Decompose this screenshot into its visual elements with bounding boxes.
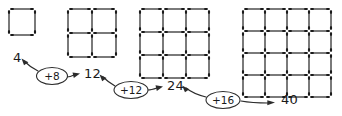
matchstick-tip bbox=[8, 30, 10, 33]
matchstick bbox=[10, 34, 33, 36]
matchstick-tip bbox=[93, 32, 96, 34]
matchstick-tip bbox=[34, 10, 36, 13]
matchstick-tip bbox=[264, 48, 266, 51]
matchstick bbox=[185, 56, 187, 76]
matchstick bbox=[69, 32, 90, 34]
matchstick bbox=[93, 56, 114, 58]
matchstick-tip bbox=[242, 76, 244, 79]
matchstick-tip bbox=[67, 52, 69, 55]
matchstick-tip bbox=[34, 30, 36, 33]
matchstick-tip bbox=[162, 73, 164, 76]
term-label-2: 12 bbox=[84, 66, 101, 81]
matchstick-tip bbox=[330, 32, 332, 35]
matchstick-tip bbox=[141, 8, 144, 10]
matchstick-tip bbox=[204, 77, 207, 79]
difference-bubble-2[interactable]: +12 bbox=[114, 82, 148, 99]
arrow-diff2-to-term2 bbox=[100, 75, 116, 87]
arrow-diff3-to-term4 bbox=[241, 100, 275, 105]
term-label-3: 24 bbox=[167, 78, 184, 93]
matchstick-tip bbox=[67, 10, 69, 13]
matchstick-tip bbox=[266, 8, 269, 10]
matchstick bbox=[69, 56, 90, 58]
matchstick bbox=[67, 10, 69, 31]
matchstick bbox=[264, 32, 266, 51]
matchstick-tip bbox=[67, 34, 69, 37]
matchstick-tip bbox=[330, 48, 332, 51]
matchstick-tip bbox=[288, 74, 291, 76]
matchstick-tip bbox=[244, 74, 247, 76]
difference-bubble-3[interactable]: +16 bbox=[206, 92, 240, 109]
matchstick-tip bbox=[91, 52, 93, 55]
matchstick-tip bbox=[286, 76, 288, 79]
matchstick-tip bbox=[244, 96, 247, 98]
matchstick-tip bbox=[326, 96, 329, 98]
matchstick bbox=[187, 8, 207, 10]
matchstick-tip bbox=[260, 74, 263, 76]
matchstick-tip bbox=[115, 34, 117, 37]
matchstick-tip bbox=[260, 96, 263, 98]
matchstick-tip bbox=[187, 54, 190, 56]
matchstick-tip bbox=[187, 77, 190, 79]
matchstick-tip bbox=[158, 31, 161, 33]
matchstick-tip bbox=[264, 92, 266, 95]
matchstick-tip bbox=[242, 92, 244, 95]
matchstick-tip bbox=[158, 77, 161, 79]
matchstick-tip bbox=[162, 56, 164, 59]
matchstick-tip bbox=[288, 52, 291, 54]
matchstick-tip bbox=[242, 48, 244, 51]
matchstick-sequence-diagram: +8 +12 +16 4 12 24 40 bbox=[0, 0, 342, 116]
matchstick bbox=[264, 76, 266, 95]
matchstick-tip bbox=[139, 73, 141, 76]
matchstick-tip bbox=[308, 92, 310, 95]
difference-bubble-2-label: +12 bbox=[120, 84, 142, 96]
matchstick bbox=[187, 77, 207, 79]
matchstick-tip bbox=[242, 26, 244, 29]
matchstick-tip bbox=[310, 52, 313, 54]
matchstick bbox=[288, 8, 307, 10]
matchstick-tip bbox=[264, 54, 266, 57]
matchstick-tip bbox=[308, 32, 310, 35]
matchstick-tip bbox=[326, 74, 329, 76]
difference-bubble-1[interactable]: +8 bbox=[37, 68, 68, 85]
matchstick bbox=[266, 52, 285, 54]
matchstick-tip bbox=[10, 8, 13, 10]
matchstick-tip bbox=[8, 10, 10, 13]
matchstick bbox=[330, 10, 332, 29]
matchstick-tip bbox=[242, 54, 244, 57]
matchstick-tip bbox=[288, 8, 291, 10]
matchstick-tip bbox=[282, 30, 285, 32]
matchstick-tip bbox=[304, 52, 307, 54]
matchstick-tip bbox=[330, 26, 332, 29]
matchstick bbox=[139, 33, 141, 53]
matchstick-tip bbox=[242, 32, 244, 35]
matchstick-tip bbox=[330, 70, 332, 73]
matchstick bbox=[139, 56, 141, 76]
matchstick bbox=[310, 96, 329, 98]
matchstick bbox=[141, 31, 161, 33]
matchstick bbox=[242, 76, 244, 95]
matchstick bbox=[67, 34, 69, 55]
matchstick bbox=[308, 76, 310, 95]
matchstick-tip bbox=[308, 76, 310, 79]
matchstick-tip bbox=[282, 52, 285, 54]
matchstick-tip bbox=[304, 96, 307, 98]
matchstick-tip bbox=[310, 96, 313, 98]
matchstick-tip bbox=[310, 8, 313, 10]
matchstick-tip bbox=[260, 52, 263, 54]
matchstick-tip bbox=[139, 33, 141, 36]
matchstick bbox=[244, 96, 263, 98]
matchstick-tip bbox=[141, 31, 144, 33]
matchstick-tip bbox=[264, 76, 266, 79]
matchstick bbox=[141, 54, 161, 56]
matchstick bbox=[187, 54, 207, 56]
matchstick-tip bbox=[282, 74, 285, 76]
matchstick-tip bbox=[187, 8, 190, 10]
matchstick-tip bbox=[69, 32, 72, 34]
matchstick-tip bbox=[141, 54, 144, 56]
matchstick bbox=[187, 31, 207, 33]
matchstick-tip bbox=[185, 10, 187, 13]
matchstick bbox=[164, 8, 184, 10]
matchstick bbox=[330, 76, 332, 95]
matchstick-tip bbox=[310, 74, 313, 76]
matchstick bbox=[242, 32, 244, 51]
